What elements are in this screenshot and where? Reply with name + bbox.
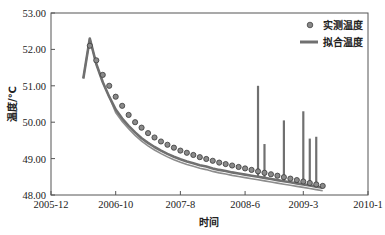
measured-point xyxy=(87,43,92,48)
measured-point xyxy=(262,170,267,175)
measured-point xyxy=(242,166,247,171)
x-tick-label: 2006-10 xyxy=(98,199,133,210)
measured-point xyxy=(139,125,144,130)
measured-point xyxy=(165,142,170,147)
measured-point xyxy=(197,155,202,160)
legend-fitted-label: 拟合温度 xyxy=(323,36,364,48)
x-tick-label: 2009-3 xyxy=(288,199,318,210)
measured-point xyxy=(113,94,118,99)
temperature-chart: 48.0049.0050.0051.0052.0053.00 2005-1220… xyxy=(0,0,385,235)
x-tick-label: 2007-8 xyxy=(166,199,196,210)
measured-point xyxy=(145,131,150,136)
y-tick-label: 50.00 xyxy=(22,117,46,128)
measured-point xyxy=(288,176,293,181)
fitted-temperature-series xyxy=(83,39,322,191)
measured-point xyxy=(120,103,125,108)
measured-point xyxy=(107,83,112,88)
measured-point xyxy=(314,182,319,187)
measured-point xyxy=(184,150,189,155)
measured-point xyxy=(171,145,176,150)
measured-point xyxy=(281,175,286,180)
legend-measured-label: 实测温度 xyxy=(323,19,364,31)
measured-point xyxy=(210,158,215,163)
measured-point xyxy=(217,160,222,165)
measured-point xyxy=(133,120,138,125)
x-tick-label: 2005-12 xyxy=(34,199,69,210)
y-tick-label: 51.00 xyxy=(22,81,46,92)
y-axis: 48.0049.0050.0051.0052.0053.00 xyxy=(22,8,55,201)
x-axis: 2005-122006-102007-82008-62009-32010-1 xyxy=(34,191,383,210)
measured-point xyxy=(249,167,254,172)
measured-point xyxy=(204,156,209,161)
y-tick-label: 52.00 xyxy=(22,44,46,55)
measured-point xyxy=(268,172,273,177)
measured-point xyxy=(275,173,280,178)
x-tick-label: 2010-1 xyxy=(353,199,383,210)
x-tick-label: 2008-6 xyxy=(230,199,260,210)
y-axis-title: 温度/℃ xyxy=(6,86,18,122)
measured-point xyxy=(152,135,157,140)
measured-point xyxy=(100,72,105,77)
measured-point xyxy=(294,177,299,182)
measured-point xyxy=(236,164,241,169)
y-tick-label: 49.00 xyxy=(22,154,46,165)
measured-point xyxy=(255,169,260,174)
measured-point xyxy=(178,148,183,153)
x-axis-title: 时间 xyxy=(199,216,219,228)
measured-point xyxy=(301,179,306,184)
measured-point xyxy=(320,183,325,188)
measured-point xyxy=(126,112,131,117)
measured-point xyxy=(94,58,99,63)
measured-point xyxy=(223,161,228,166)
legend: 实测温度 拟合温度 xyxy=(300,19,364,48)
measured-point xyxy=(191,152,196,157)
y-tick-label: 53.00 xyxy=(22,8,46,19)
measured-point xyxy=(307,180,312,185)
measured-point xyxy=(230,163,235,168)
measured-point xyxy=(158,139,163,144)
measured-marker-icon xyxy=(307,22,313,28)
